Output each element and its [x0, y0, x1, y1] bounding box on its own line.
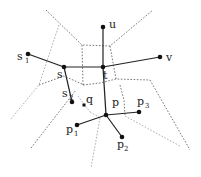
- node-u: [101, 25, 106, 30]
- label-p1-subscript: 1: [74, 130, 78, 138]
- node-p3: [137, 110, 142, 115]
- label-v: v: [165, 51, 173, 64]
- node-labels: u v t s s 1 s 2 q p p 1 p 2 p 3: [17, 18, 173, 153]
- label-q: q: [86, 93, 93, 106]
- boundary-top-left: [46, 10, 153, 46]
- boundary-t-right: [110, 46, 150, 80]
- label-p3: p: [137, 95, 144, 108]
- boundary-p1-right: [91, 118, 100, 168]
- label-p2: p: [117, 138, 124, 151]
- node-v: [158, 55, 163, 60]
- edge-p-p3: [106, 112, 139, 115]
- node-p1: [75, 123, 80, 128]
- label-u: u: [109, 18, 116, 31]
- label-p3-subscript: 3: [145, 102, 149, 110]
- label-p: p: [112, 96, 119, 109]
- label-s: s: [57, 68, 63, 81]
- boundary-t-bottom: [83, 79, 116, 85]
- boundary-left-outer: [10, 25, 59, 120]
- boundary-p-top: [120, 85, 125, 116]
- edge-t-v: [103, 57, 160, 67]
- label-t: t: [103, 69, 108, 82]
- node-p: [104, 113, 109, 118]
- boundary-pq: [90, 112, 99, 117]
- boundary-p2-right: [125, 116, 180, 146]
- graph-diagram: u v t s s 1 s 2 q p p 1 p 2 p 3: [0, 0, 201, 177]
- label-s2-subscript: 2: [69, 94, 73, 102]
- boundary-p3-right: [150, 80, 190, 150]
- label-p2-subscript: 2: [124, 145, 128, 153]
- label-s1: s: [17, 50, 23, 63]
- boundary-st-left: [82, 45, 83, 85]
- label-p1: p: [66, 123, 73, 136]
- edge-p-p1: [77, 115, 106, 125]
- edge-p-p2: [106, 115, 122, 137]
- node-s1: [26, 52, 31, 57]
- label-s1-subscript: 1: [25, 57, 29, 65]
- cell-boundaries: [10, 10, 190, 168]
- label-s2: s: [62, 87, 68, 100]
- graph-edges: [28, 27, 160, 137]
